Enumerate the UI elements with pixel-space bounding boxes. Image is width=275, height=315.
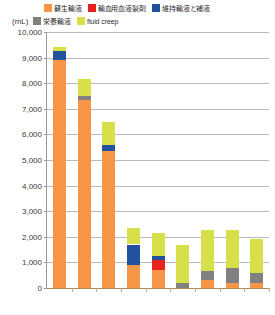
bar-segment [127, 265, 140, 288]
y-axis-tick-labels: 10,0009,0008,0007,0006,0005,0004,0003,00… [0, 27, 46, 288]
y-axis-tick-label: 9,000 [22, 53, 42, 62]
bar-segment [53, 51, 66, 60]
bar-segment [102, 145, 115, 151]
bar-column[interactable] [250, 239, 263, 288]
bar-column[interactable] [53, 47, 66, 288]
plot-wrapper: 10,0009,0008,0007,0006,0005,0004,0003,00… [0, 27, 275, 315]
x-axis-tick [170, 288, 171, 292]
bar-segment [127, 228, 140, 245]
y-axis-unit-label: (mL) [12, 17, 28, 26]
x-axis-tick [244, 288, 245, 292]
bar-column[interactable] [102, 122, 115, 288]
bar-segment [152, 270, 165, 288]
legend-swatch-fluid-creep [77, 17, 85, 25]
legend-swatch-maintenance-fluid [152, 4, 160, 12]
bar-segment [78, 79, 91, 96]
legend-label-blood-products: 輸血用血液製剤 [98, 4, 146, 13]
legend-item-resuscitation-fluid: 蘇生輸液 [44, 4, 82, 13]
bars-layer [47, 32, 269, 288]
legend-label-resuscitation-fluid: 蘇生輸液 [54, 4, 82, 13]
bar-segment [102, 122, 115, 145]
bar-segment [53, 47, 66, 51]
y-axis-tick-label: 6,000 [22, 130, 42, 139]
x-axis-tick [96, 288, 97, 292]
bar-column[interactable] [127, 228, 140, 288]
bar-segment [250, 273, 263, 283]
legend-swatch-blood-products [88, 4, 96, 12]
x-axis-tick [269, 288, 270, 292]
y-axis-tick-label: 3,000 [22, 207, 42, 216]
legend-label-fluid-creep: fluid creep [87, 17, 118, 26]
stacked-bar-chart: 蘇生輸液 輸血用血液製剤 維持輸液と補液 (mL) 栄養輸液 fluid cre… [0, 0, 275, 315]
legend-item-fluid-creep: fluid creep [77, 17, 118, 26]
legend-item-nutritional-fluid: 栄養輸液 [33, 17, 71, 26]
plot-area [46, 32, 269, 289]
y-axis-tick-label: 0 [38, 284, 42, 293]
bar-segment [201, 230, 214, 271]
bar-segment [152, 256, 165, 260]
y-axis-tick-label: 2,000 [22, 232, 42, 241]
bar-segment [226, 230, 239, 267]
x-axis-tick [220, 288, 221, 292]
legend-swatch-nutritional-fluid [33, 17, 41, 25]
legend-item-maintenance-fluid: 維持輸液と補液 [152, 4, 210, 13]
x-axis-tick [195, 288, 196, 292]
x-axis-tick [146, 288, 147, 292]
bar-segment [127, 245, 140, 265]
bar-column[interactable] [152, 233, 165, 288]
bar-segment [250, 239, 263, 272]
bar-segment [53, 60, 66, 288]
bar-column[interactable] [176, 244, 189, 288]
x-axis-ticks [47, 288, 269, 294]
y-axis-tick-label: 7,000 [22, 104, 42, 113]
legend-label-maintenance-fluid: 維持輸液と補液 [162, 4, 210, 13]
bar-segment [176, 245, 189, 283]
bar-segment [226, 268, 239, 283]
legend-row-1: 蘇生輸液 輸血用血液製剤 維持輸液と補液 [0, 2, 275, 14]
legend-item-blood-products: 輸血用血液製剤 [88, 4, 146, 13]
legend-label-nutritional-fluid: 栄養輸液 [43, 17, 71, 26]
y-axis-tick-label: 5,000 [22, 156, 42, 165]
x-axis-tick [72, 288, 73, 292]
bar-segment [78, 96, 91, 100]
bar-column[interactable] [201, 230, 214, 288]
legend-row-2: (mL) 栄養輸液 fluid creep [0, 15, 275, 27]
y-axis-tick-label: 8,000 [22, 79, 42, 88]
bar-column[interactable] [78, 79, 91, 288]
bar-segment [152, 260, 165, 270]
y-axis-tick-label: 4,000 [22, 181, 42, 190]
bar-segment [102, 151, 115, 288]
bar-segment [152, 233, 165, 256]
y-axis-tick-label: 10,000 [18, 28, 42, 37]
bar-segment [201, 271, 214, 280]
x-axis-tick [121, 288, 122, 292]
y-axis-tick-label: 1,000 [22, 258, 42, 267]
bar-column[interactable] [226, 230, 239, 288]
chart-legend: 蘇生輸液 輸血用血液製剤 維持輸液と補液 (mL) 栄養輸液 fluid cre… [0, 0, 275, 27]
legend-swatch-resuscitation-fluid [44, 4, 52, 12]
bar-segment [78, 100, 91, 288]
bar-segment [201, 280, 214, 288]
